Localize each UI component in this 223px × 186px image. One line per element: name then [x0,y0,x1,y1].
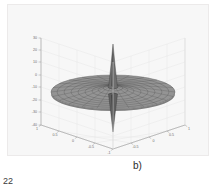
x-tick-label: 0 [72,139,74,143]
z-tick-label: 0 [35,73,37,77]
z-tick-labels: 30 20 10 0 -10 -20 -30 -40 [32,36,37,127]
page-number-clipped: 22 [3,177,13,185]
surface-plot: 30 20 10 0 -10 -20 -30 -40 1 0.5 0 [7,4,209,156]
x-tick-label: -1 [107,151,110,155]
y-tick-marks [131,125,187,145]
subfigure-caption: b) [133,160,173,171]
x-tick-marks [39,125,113,151]
y-tick-label: 0 [153,139,155,143]
y-tick-label: -0.5 [132,145,138,149]
z-tick-label: 30 [33,36,37,40]
figure-container: 30 20 10 0 -10 -20 -30 -40 1 0.5 0 [0,0,223,186]
x-tick-label: 1 [36,127,38,131]
z-tick-label: -20 [32,98,37,102]
z-tick-label: 10 [33,60,37,64]
z-tick-label: -30 [32,110,37,114]
y-tick-labels: -0.5 0 0.5 1 [132,127,190,149]
y-tick-label: 0.5 [169,133,174,137]
plot-svg: 30 20 10 0 -10 -20 -30 -40 1 0.5 0 [7,4,209,156]
z-tick-marks [39,38,42,125]
y-tick-label: 1 [188,127,190,131]
x-tick-labels: 1 0.5 0 -0.5 -1 [36,127,111,155]
x-tick-label: -0.5 [88,145,94,149]
z-tick-label: -10 [32,85,37,89]
x-tick-label: 0.5 [53,133,58,137]
z-tick-label: 20 [33,48,37,52]
